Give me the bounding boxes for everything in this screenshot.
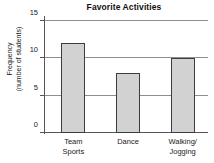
- chart-title: Favorite Activities: [40, 2, 208, 13]
- y-axis-tick: [40, 20, 45, 21]
- y-axis-tick-label: 5: [34, 82, 38, 91]
- y-axis-tick-label: 10: [30, 45, 38, 54]
- x-axis-category-label-line: Sports: [62, 147, 84, 157]
- x-axis-category-label-line: Dance: [117, 137, 139, 147]
- y-axis-tick: [40, 132, 45, 133]
- y-axis-tick-label: 15: [30, 8, 38, 17]
- y-axis-tick: [40, 95, 45, 96]
- bar: [61, 43, 85, 133]
- y-axis-tick-label: 0: [34, 120, 38, 129]
- x-axis-category-label: Walking/Jogging: [168, 137, 196, 156]
- bar: [116, 73, 140, 133]
- x-axis-category-label: TeamSports: [62, 137, 84, 156]
- bar: [171, 58, 195, 133]
- x-axis-category-label: Dance: [117, 137, 139, 147]
- y-axis-line: [44, 16, 45, 134]
- plot-area: 051015TeamSportsDanceWalking/Jogging: [44, 21, 208, 133]
- x-axis-category-label-line: Jogging: [168, 147, 196, 157]
- x-axis-category-label-line: Team: [62, 137, 84, 147]
- y-axis-label: Frequency (number of students): [5, 12, 27, 106]
- gridline: [44, 20, 208, 21]
- y-axis-label-line-2: (number of students): [14, 12, 23, 106]
- x-axis-category-label-line: Walking/: [168, 137, 196, 147]
- y-axis-label-line-1: Frequency: [5, 12, 14, 106]
- bar-chart: Favorite Activities Frequency (number of…: [0, 0, 214, 163]
- y-axis-tick: [40, 57, 45, 58]
